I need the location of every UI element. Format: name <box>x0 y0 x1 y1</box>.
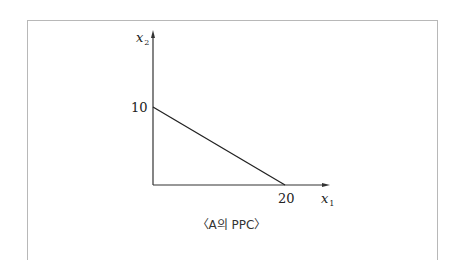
figure-caption: 〈A의 PPC〉 <box>0 215 463 232</box>
x-axis-label: x1 <box>321 192 334 208</box>
x-axis-arrow-icon <box>322 183 330 187</box>
y-intercept-label: 10 <box>131 101 148 114</box>
ppc-line <box>153 107 285 185</box>
y-axis-label: x2 <box>136 31 149 47</box>
x-intercept-label: 20 <box>278 192 295 205</box>
y-axis-arrow-icon <box>151 30 155 38</box>
